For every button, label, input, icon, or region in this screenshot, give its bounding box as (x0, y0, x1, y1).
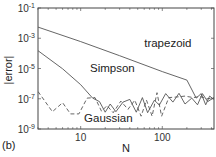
y-axis-label: |error| (2, 56, 14, 85)
annotation-simpson: Simpson (90, 62, 135, 74)
x-axis-label: N (122, 142, 130, 154)
y-tick-label: 10-7 (18, 93, 35, 105)
panel-label: (b) (2, 139, 15, 151)
annotation-trapezoid: trapezoid (144, 37, 191, 49)
x-tick-label: 100 (154, 132, 171, 143)
error-convergence-chart: 10-110-310-510-710-9 10100 trapezoidSimp… (0, 0, 216, 157)
y-tick-label: 10-1 (18, 2, 35, 14)
y-tick-label: 10-3 (18, 32, 35, 44)
y-tick-label: 10-9 (18, 123, 35, 135)
y-tick-labels: 10-110-310-510-710-9 (18, 2, 35, 135)
annotation-gaussian: Gaussian (84, 112, 133, 124)
y-tick-label: 10-5 (18, 63, 35, 75)
curve-annotations: trapezoidSimpsonGaussian (84, 37, 191, 123)
x-tick-label: 10 (75, 132, 87, 143)
